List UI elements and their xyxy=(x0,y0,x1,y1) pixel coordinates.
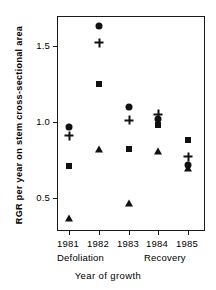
x-axis-title: Year of growth xyxy=(0,270,216,281)
y-axis-title: RGR per year on stem cross-sectional are… xyxy=(14,10,24,240)
data-point-plus-1984 xyxy=(154,110,163,119)
data-point-circle-1981 xyxy=(66,123,73,130)
annotation-defoliation: Defoliation xyxy=(57,252,104,263)
data-point-triangle-1983 xyxy=(125,199,133,206)
y-tick-1.5: 1.5 xyxy=(53,46,58,47)
data-point-plus-1983 xyxy=(125,116,134,125)
data-point-triangle-1982 xyxy=(95,146,103,153)
data-point-square-1983 xyxy=(126,146,132,152)
y-tick-label-1.0: 1.0 xyxy=(36,116,50,127)
x-tick-1981 xyxy=(69,230,70,235)
plot-area: 1.5 1.0 0.5 xyxy=(57,16,205,231)
data-point-plus-1982 xyxy=(95,38,104,47)
data-point-square-1985 xyxy=(185,137,191,143)
data-point-square-1982 xyxy=(96,81,102,87)
data-point-triangle-1985 xyxy=(184,164,192,171)
data-point-square-1984 xyxy=(155,122,161,128)
x-tick-1982 xyxy=(99,230,100,235)
data-point-circle-1983 xyxy=(126,103,133,110)
data-point-triangle-1984 xyxy=(154,147,162,154)
data-point-square-1981 xyxy=(66,163,72,169)
figure-scatter-rgr: RGR per year on stem cross-sectional are… xyxy=(0,0,216,290)
data-point-plus-1981 xyxy=(65,131,74,140)
data-point-triangle-1981 xyxy=(65,214,73,221)
y-tick-label-0.5: 0.5 xyxy=(36,192,50,203)
x-tick-1983 xyxy=(129,230,130,235)
y-tick-label-1.5: 1.5 xyxy=(36,40,50,51)
data-point-circle-1982 xyxy=(96,23,103,30)
y-tick-1.0: 1.0 xyxy=(53,122,58,123)
annotation-recovery: Recovery xyxy=(144,252,186,263)
x-tick-1985 xyxy=(188,230,189,235)
data-point-plus-1985 xyxy=(184,152,193,161)
y-tick-0.5: 0.5 xyxy=(53,198,58,199)
x-tick-1984 xyxy=(158,230,159,235)
x-tick-label-1985: 1985 xyxy=(167,238,207,249)
